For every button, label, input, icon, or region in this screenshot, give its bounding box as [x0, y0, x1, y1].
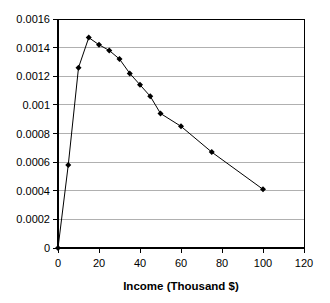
x-tick-label-4: 80	[216, 257, 228, 269]
y-tick-label-1: 0.0002	[16, 213, 50, 225]
y-tick-label-2: 0.0004	[16, 185, 50, 197]
x-tick-label-5: 100	[254, 257, 272, 269]
y-tick-label-4: 0.0008	[16, 128, 50, 140]
y-tick-label-8: 0.0016	[16, 13, 50, 25]
x-tick-label-2: 40	[134, 257, 146, 269]
chart-container: 0 0.0002 0.0004 0.0006 0.0008 0.001 0.00…	[0, 0, 330, 303]
y-tick-label-0: 0	[44, 242, 50, 254]
y-tick-label-3: 0.0006	[16, 156, 50, 168]
x-tick-label-6: 120	[295, 257, 313, 269]
x-axis-title: Income (Thousand $)	[123, 280, 239, 292]
x-axis-ticks	[58, 248, 304, 253]
y-tick-label-6: 0.0012	[16, 70, 50, 82]
y-axis-ticks	[53, 19, 58, 248]
y-tick-label-7: 0.0014	[16, 42, 50, 54]
y-axis-tick-labels: 0 0.0002 0.0004 0.0006 0.0008 0.001 0.00…	[16, 13, 50, 254]
x-tick-label-1: 20	[93, 257, 105, 269]
y-tick-label-5: 0.001	[22, 99, 50, 111]
x-tick-label-3: 60	[175, 257, 187, 269]
x-tick-label-0: 0	[55, 257, 61, 269]
line-chart: 0 0.0002 0.0004 0.0006 0.0008 0.001 0.00…	[0, 0, 330, 303]
x-axis-tick-labels: 0 20 40 60 80 100 120	[55, 257, 313, 269]
